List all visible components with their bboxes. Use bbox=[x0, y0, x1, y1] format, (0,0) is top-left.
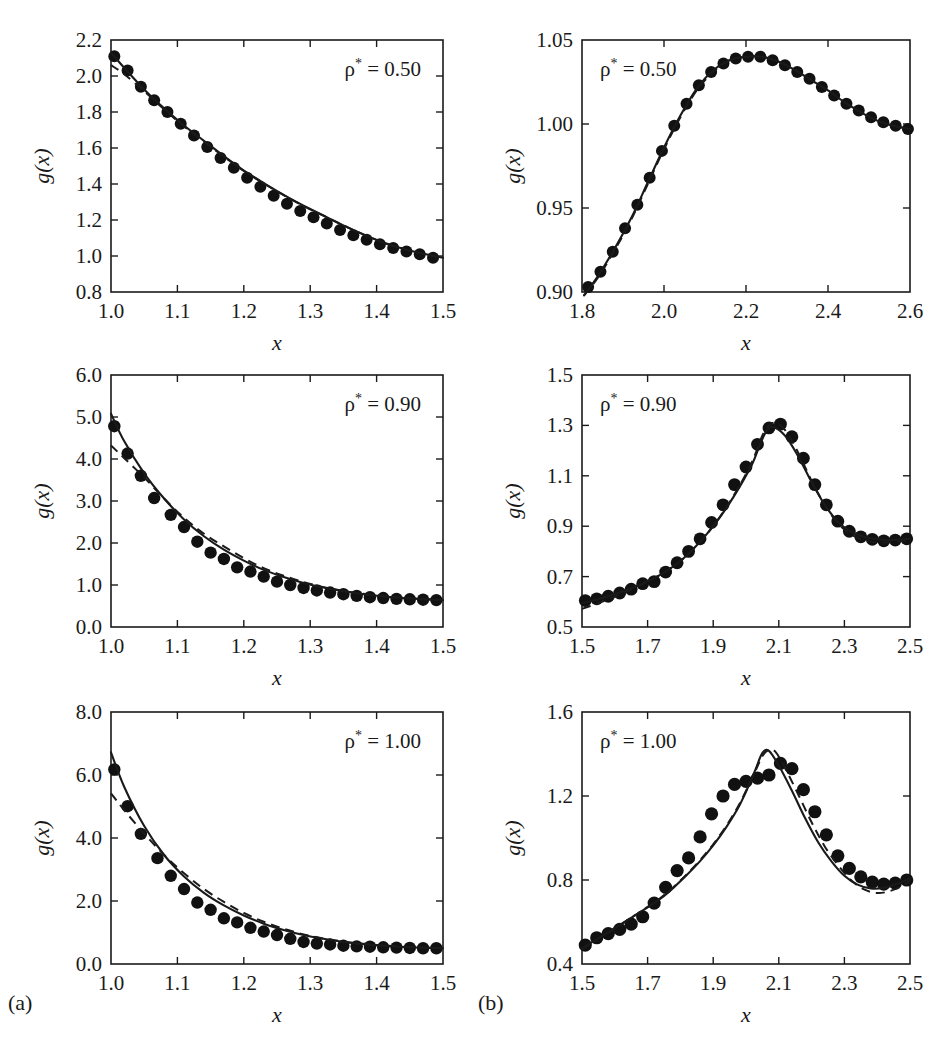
x-tick-label: 1.9 bbox=[700, 634, 726, 658]
x-axis-title: x bbox=[740, 1002, 751, 1027]
data-point bbox=[659, 881, 672, 894]
y-tick-label: 6.0 bbox=[76, 363, 102, 387]
data-point bbox=[297, 936, 309, 948]
x-tick-label: 2.5 bbox=[897, 634, 923, 658]
plot-area: 1.01.11.21.31.41.50.01.02.03.04.05.06.0x… bbox=[29, 363, 456, 690]
dashed-curve bbox=[582, 423, 910, 609]
plot-area: 1.51.71.92.12.32.50.40.81.21.6xg(x)ρ* = … bbox=[500, 700, 923, 1027]
y-axis-title: g(x) bbox=[500, 148, 525, 183]
y-axis-title: g(x) bbox=[29, 820, 54, 855]
y-tick-label: 0.90 bbox=[536, 280, 573, 304]
y-axis-title: g(x) bbox=[500, 820, 525, 855]
plot-area: 1.82.02.22.42.60.900.951.001.05xg(x)ρ* =… bbox=[500, 28, 923, 355]
x-tick-label: 2.0 bbox=[651, 299, 677, 323]
y-tick-label: 0.7 bbox=[547, 565, 573, 589]
y-tick-label: 2.0 bbox=[76, 889, 102, 913]
y-tick-label: 2.2 bbox=[76, 28, 102, 52]
data-point bbox=[693, 830, 706, 843]
y-tick-label: 1.3 bbox=[547, 413, 573, 437]
y-tick-label: 2.0 bbox=[76, 64, 102, 88]
x-axis-title: x bbox=[271, 1002, 282, 1027]
panel-a-bot-svg: 1.01.11.21.31.41.50.02.04.06.08.0xg(x)ρ*… bbox=[0, 670, 470, 1030]
data-point bbox=[191, 896, 203, 908]
y-tick-label: 8.0 bbox=[76, 700, 102, 724]
dashed-curve bbox=[111, 793, 443, 948]
panel-a-bot: 1.01.11.21.31.41.50.02.04.06.08.0xg(x)ρ*… bbox=[0, 670, 470, 1030]
y-tick-label: 1.00 bbox=[536, 112, 573, 136]
data-point bbox=[231, 916, 243, 928]
y-tick-label: 1.1 bbox=[547, 464, 573, 488]
solid-curve bbox=[584, 56, 910, 295]
y-tick-label: 1.2 bbox=[547, 784, 573, 808]
x-tick-label: 1.3 bbox=[297, 634, 323, 658]
y-tick-label: 0.4 bbox=[547, 952, 574, 976]
data-point bbox=[854, 870, 867, 883]
x-tick-label: 2.5 bbox=[897, 971, 923, 995]
x-tick-label: 1.5 bbox=[430, 971, 456, 995]
y-tick-label: 4.0 bbox=[76, 826, 102, 850]
data-point bbox=[244, 922, 256, 934]
x-tick-label: 1.4 bbox=[363, 299, 390, 323]
data-point bbox=[244, 565, 256, 577]
y-tick-label: 0.0 bbox=[76, 615, 102, 639]
x-tick-label: 2.6 bbox=[897, 299, 923, 323]
data-point bbox=[866, 876, 879, 889]
panel-a-mid-svg: 1.01.11.21.31.41.50.01.02.03.04.05.06.0x… bbox=[0, 335, 470, 685]
density-annotation: ρ* = 1.00 bbox=[344, 728, 421, 753]
data-point bbox=[682, 851, 695, 864]
y-tick-label: 1.0 bbox=[76, 573, 102, 597]
plot-area: 1.01.11.21.31.41.50.02.04.06.08.0xg(x)ρ*… bbox=[29, 700, 456, 1027]
y-axis-title: g(x) bbox=[29, 148, 54, 183]
y-tick-label: 3.0 bbox=[76, 489, 102, 513]
y-tick-label: 0.8 bbox=[547, 868, 573, 892]
data-point bbox=[377, 592, 389, 604]
y-tick-label: 1.5 bbox=[547, 363, 573, 387]
x-tick-label: 2.4 bbox=[815, 299, 842, 323]
y-tick-label: 0.9 bbox=[547, 514, 573, 538]
panel-b-mid-svg: 1.51.71.92.12.32.50.50.70.91.11.31.5xg(x… bbox=[470, 335, 940, 685]
y-tick-label: 6.0 bbox=[76, 763, 102, 787]
y-tick-label: 0.8 bbox=[76, 280, 102, 304]
panel-b-bot: 1.51.71.92.12.32.50.40.81.21.6xg(x)ρ* = … bbox=[470, 670, 940, 1030]
x-tick-label: 1.2 bbox=[231, 634, 257, 658]
y-tick-label: 5.0 bbox=[76, 405, 102, 429]
data-point bbox=[218, 912, 230, 924]
data-point bbox=[820, 828, 833, 841]
data-point bbox=[716, 789, 729, 802]
x-tick-label: 1.3 bbox=[297, 971, 323, 995]
data-point bbox=[728, 778, 741, 791]
y-axis-title: g(x) bbox=[500, 483, 525, 518]
y-tick-label: 1.4 bbox=[76, 172, 103, 196]
x-tick-label: 2.3 bbox=[831, 971, 857, 995]
density-annotation: ρ* = 0.90 bbox=[344, 391, 421, 416]
x-tick-label: 2.3 bbox=[831, 634, 857, 658]
subfigure-label-a: (a) bbox=[8, 990, 32, 1016]
data-point bbox=[705, 807, 718, 820]
data-point bbox=[271, 929, 283, 941]
data-point bbox=[625, 918, 638, 931]
panel-b-bot-svg: 1.51.71.92.12.32.50.40.81.21.6xg(x)ρ* = … bbox=[470, 670, 940, 1030]
y-tick-label: 1.05 bbox=[536, 28, 573, 52]
panel-b-top: 1.82.02.22.42.60.900.951.001.05xg(x)ρ* =… bbox=[470, 0, 940, 350]
x-tick-label: 1.3 bbox=[297, 299, 323, 323]
panel-a-mid: 1.01.11.21.31.41.50.01.02.03.04.05.06.0x… bbox=[0, 335, 470, 685]
data-point bbox=[204, 904, 216, 916]
density-annotation: ρ* = 0.50 bbox=[600, 56, 677, 81]
x-tick-label: 1.2 bbox=[231, 971, 257, 995]
x-tick-label: 1.4 bbox=[363, 971, 390, 995]
data-point bbox=[377, 941, 389, 953]
solid-curve bbox=[582, 427, 910, 603]
data-point bbox=[682, 545, 695, 558]
x-tick-label: 2.1 bbox=[766, 634, 792, 658]
data-point bbox=[762, 768, 775, 781]
data-point bbox=[204, 546, 216, 558]
x-tick-label: 1.1 bbox=[164, 971, 190, 995]
data-point bbox=[427, 252, 439, 264]
y-tick-label: 1.8 bbox=[76, 100, 102, 124]
x-tick-label: 1.5 bbox=[430, 299, 456, 323]
panel-b-mid: 1.51.71.92.12.32.50.50.70.91.11.31.5xg(x… bbox=[470, 335, 940, 685]
plot-area: 1.51.71.92.12.32.50.50.70.91.11.31.5xg(x… bbox=[500, 363, 923, 690]
data-point bbox=[671, 864, 684, 877]
y-axis-title: g(x) bbox=[29, 483, 54, 518]
figure-root: 1.01.11.21.31.41.50.81.01.21.41.61.82.02… bbox=[0, 0, 940, 1040]
